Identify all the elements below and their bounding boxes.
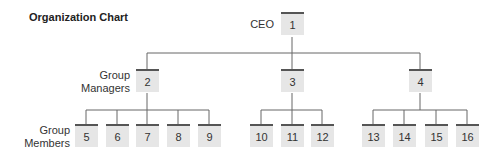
node-manager: 3 — [281, 69, 304, 92]
node-member: 15 — [425, 124, 448, 147]
node-manager: 4 — [409, 69, 432, 92]
ceo-label: CEO — [240, 18, 274, 31]
label-line: Group — [0, 124, 70, 137]
node-member: 7 — [136, 124, 159, 147]
group-members-label: Group Members — [0, 124, 70, 150]
group-managers-label: Group Managers — [60, 69, 130, 95]
node-ceo: 1 — [281, 12, 304, 35]
node-member: 13 — [362, 124, 385, 147]
label-line: Managers — [60, 82, 130, 95]
node-member: 6 — [106, 124, 129, 147]
label-line: Members — [0, 137, 70, 150]
node-member: 12 — [311, 124, 334, 147]
node-member: 11 — [281, 124, 304, 147]
node-member: 10 — [250, 124, 273, 147]
node-member: 16 — [456, 124, 479, 147]
node-member: 14 — [393, 124, 416, 147]
node-member: 5 — [75, 124, 98, 147]
node-member: 8 — [167, 124, 190, 147]
node-member: 9 — [198, 124, 221, 147]
node-manager: 2 — [136, 69, 159, 92]
label-line: Group — [60, 69, 130, 82]
